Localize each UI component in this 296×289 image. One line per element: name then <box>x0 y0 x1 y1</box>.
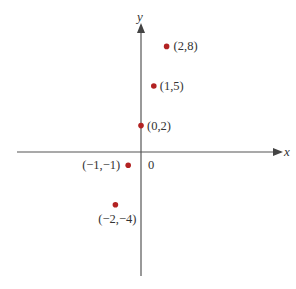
point-label: (2,8) <box>174 39 198 53</box>
data-points: (2,8)(1,5)(0,2)(−1,−1)(−2,−4) <box>82 39 197 225</box>
data-point <box>138 123 144 129</box>
data-point <box>151 83 157 89</box>
origin-label: 0 <box>148 158 154 172</box>
x-axis-label: x <box>283 144 290 159</box>
point-label: (1,5) <box>160 79 184 93</box>
data-point <box>164 44 170 50</box>
coordinate-plane: x y 0 (2,8)(1,5)(0,2)(−1,−1)(−2,−4) <box>0 0 296 289</box>
point-label: (−1,−1) <box>82 158 120 172</box>
point-label: (−2,−4) <box>98 212 136 226</box>
data-point <box>113 202 119 208</box>
y-axis-label: y <box>135 9 143 24</box>
point-label: (0,2) <box>147 119 171 133</box>
data-point <box>125 162 131 168</box>
